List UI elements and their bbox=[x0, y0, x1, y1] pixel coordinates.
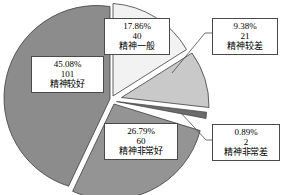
pie-label-count: 60 bbox=[108, 136, 174, 146]
pie-label-category: 精神较差 bbox=[216, 41, 274, 51]
pie-label-jingshen-jiaohao: 45.08% 101 精神较好 bbox=[31, 56, 104, 93]
pie-label-category: 精神较好 bbox=[35, 79, 100, 89]
pie-label-jingshen-jiaocha: 9.38% 21 精神较差 bbox=[212, 18, 278, 55]
pie-label-percent: 45.08% bbox=[35, 59, 100, 69]
pie-chart: 45.08% 101 精神较好 17.86% 40 精神一般 9.38% 21 … bbox=[0, 0, 282, 195]
pie-label-jingshen-feichangcha: 0.89% 2 精神非常差 bbox=[212, 124, 280, 161]
pie-label-percent: 0.89% bbox=[216, 127, 276, 137]
pie-label-count: 40 bbox=[108, 31, 166, 41]
pie-label-count: 21 bbox=[216, 31, 274, 41]
pie-label-category: 精神非常好 bbox=[108, 146, 174, 156]
pie-label-percent: 9.38% bbox=[216, 21, 274, 31]
pie-label-count: 2 bbox=[216, 137, 276, 147]
pie-label-jingshen-feichanghao: 26.79% 60 精神非常好 bbox=[104, 123, 178, 160]
pie-label-jingshen-yiban: 17.86% 40 精神一般 bbox=[104, 18, 170, 55]
pie-label-percent: 26.79% bbox=[108, 126, 174, 136]
pie-label-category: 精神非常差 bbox=[216, 147, 276, 157]
pie-label-percent: 17.86% bbox=[108, 21, 166, 31]
pie-label-count: 101 bbox=[35, 69, 100, 79]
pie-label-category: 精神一般 bbox=[108, 41, 166, 51]
